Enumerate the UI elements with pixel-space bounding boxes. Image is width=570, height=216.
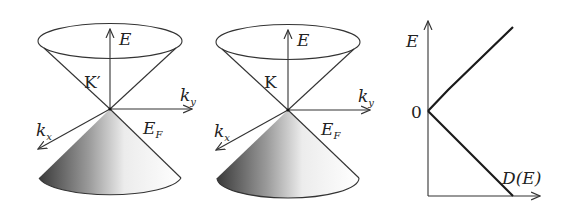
valley-label-k: K	[264, 72, 277, 92]
kx-axis-label: kx	[36, 120, 52, 142]
kx-axis-label: kx	[214, 121, 230, 143]
zero-tick-label: 0	[411, 102, 422, 122]
dirac-point	[108, 107, 111, 110]
dos-upper-branch	[428, 27, 513, 111]
valley-label-kprime: K′	[84, 72, 101, 92]
cone-kprime-panel: E K′ ky kx EF	[36, 24, 196, 195]
fermi-energy-label: EF	[320, 119, 341, 141]
dos-lower-branch	[428, 111, 513, 196]
dirac-cone-figure: E K′ ky kx EF E K ky kx EF E 0 D(E)	[0, 0, 570, 216]
dos-plot-panel: E 0 D(E)	[405, 21, 541, 196]
fermi-energy-label: EF	[142, 118, 163, 140]
dirac-point	[286, 108, 289, 111]
lower-cone-fill	[39, 109, 181, 195]
ky-axis-label: ky	[358, 86, 374, 108]
energy-axis-label: E	[296, 30, 310, 50]
ky-axis-label: ky	[180, 85, 196, 107]
lower-cone-fill	[217, 110, 359, 198]
dos-energy-label: E	[405, 31, 419, 51]
energy-axis-label: E	[118, 29, 132, 49]
cone-k-panel: E K ky kx EF	[214, 25, 374, 198]
dos-label: D(E)	[501, 168, 541, 188]
